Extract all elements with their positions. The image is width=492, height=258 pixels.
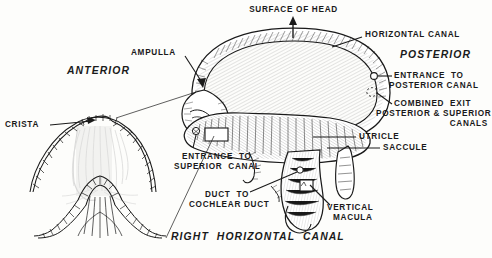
label-combined-exit-line1: COMBINED EXIT: [394, 99, 471, 109]
label-utricle: UTRICLE: [359, 132, 399, 142]
label-combined-exit-line2: POSTERIOR & SUPERIOR: [376, 109, 491, 119]
label-entrance-to-posterior-canal-line1: ENTRANCE TO: [394, 71, 464, 81]
figure-canvas: SURFACE OF HEAD HORIZONTAL CANAL POSTERI…: [0, 0, 492, 258]
cochlear-duct-stub: [271, 185, 282, 202]
label-entrance-to-superior-canal-line2: SUPERIOR CANAL: [174, 162, 260, 172]
cut-canal-stubs: [335, 146, 354, 199]
duct-to-cochlear-duct-marker: [297, 167, 303, 173]
label-vertical-macula-line1: VERTICAL: [327, 203, 374, 213]
label-vertical-macula-line2: MACULA: [333, 213, 373, 223]
label-duct-to-cochlear-duct-line2: COCHLEAR DUCT: [189, 200, 270, 210]
label-posterior: POSTERIOR: [400, 50, 471, 60]
label-entrance-to-superior-canal-line1: ENTRANCE TO: [182, 152, 252, 162]
label-saccule: SACCULE: [383, 143, 427, 153]
label-crista: CRISTA: [5, 120, 39, 130]
label-entrance-to-posterior-canal-line2: POSTERIOR CANAL: [389, 81, 479, 91]
label-duct-to-cochlear-duct-line1: DUCT TO: [205, 190, 249, 200]
entrance-to-posterior-canal-marker: [371, 73, 378, 80]
label-horizontal-canal: HORIZONTAL CANAL: [365, 30, 460, 40]
figure-caption: RIGHT HORIZONTAL CANAL: [171, 232, 345, 242]
label-ampulla: AMPULLA: [131, 48, 176, 58]
label-combined-exit-line3: CANALS: [376, 119, 488, 129]
label-surface-of-head: SURFACE OF HEAD: [216, 5, 371, 15]
crista-detail-inset: [30, 114, 166, 238]
label-anterior: ANTERIOR: [67, 66, 130, 76]
